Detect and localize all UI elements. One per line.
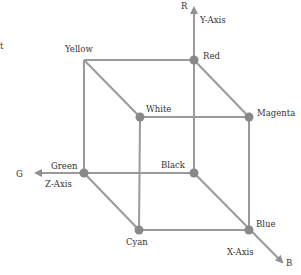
vertex-red-label: Red xyxy=(203,51,220,61)
vertex-cyan-label: Cyan xyxy=(126,237,148,247)
vertex-red-dot xyxy=(190,56,199,65)
x-axis-label: X-Axis xyxy=(227,247,254,257)
axis-end-r: R xyxy=(181,1,188,11)
vertex-green-dot xyxy=(80,169,89,178)
vertex-green-label: Green xyxy=(51,161,78,171)
rgb-color-cube-diagram: t R Y-Axis G Z-Axis X-Axis B Yellow Red … xyxy=(0,0,301,275)
vertex-cyan-dot xyxy=(135,226,144,235)
axis-end-b: B xyxy=(286,258,292,268)
vertex-blue-label: Blue xyxy=(256,219,275,229)
vertex-blue-dot xyxy=(245,226,254,235)
edge-yellow-white xyxy=(84,60,140,117)
vertex-magenta-label: Magenta xyxy=(257,108,295,118)
z-axis-label: Z-Axis xyxy=(45,179,72,189)
vertex-magenta-dot xyxy=(245,113,254,122)
edge-green-cyan xyxy=(84,173,139,230)
vertex-black-label: Black xyxy=(161,160,186,170)
stray-mark: t xyxy=(0,41,4,51)
vertex-white-label: White xyxy=(146,104,171,114)
vertex-white-dot xyxy=(136,113,145,122)
vertex-yellow-label: Yellow xyxy=(64,44,93,54)
edge-red-magenta xyxy=(194,60,249,117)
axis-end-g: G xyxy=(16,169,23,179)
vertex-black-dot xyxy=(190,169,199,178)
y-axis-label: Y-Axis xyxy=(199,15,226,25)
